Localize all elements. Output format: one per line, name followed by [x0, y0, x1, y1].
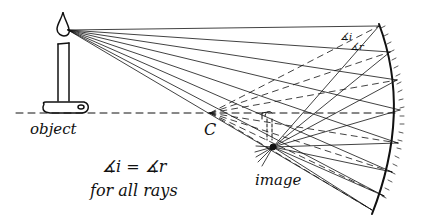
angle-r-label: ∡r — [350, 41, 365, 52]
diagram-canvas: object C image ∡i = ∡r for all rays ∡i ∡… — [0, 0, 424, 222]
ray-diagram: object C image ∡i = ∡r for all rays ∡i ∡… — [0, 0, 424, 222]
normal-lines — [210, 26, 398, 210]
candle-object-icon — [43, 12, 88, 113]
law-label-line2: for all rays — [89, 181, 178, 200]
center-label: C — [204, 120, 216, 139]
image-convergence-marks — [255, 146, 273, 166]
law-label-line1: ∡i = ∡r — [102, 157, 168, 176]
object-label: object — [30, 120, 78, 138]
image-label: image — [255, 171, 302, 189]
concave-mirror — [372, 24, 404, 214]
